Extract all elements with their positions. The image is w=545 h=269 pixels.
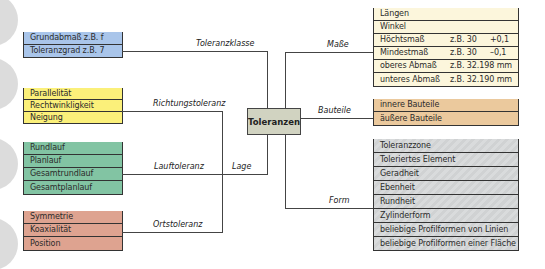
item-example: z.B. 30 (450, 47, 477, 59)
decorative-circle (0, 58, 18, 110)
connector-line (222, 174, 268, 175)
list-item: Rundheit (374, 194, 518, 208)
connector-line (122, 174, 223, 175)
label-lage: Lage (232, 162, 251, 171)
list-item: Position (24, 236, 122, 250)
list-item: beliebige Profilformen einer Fläche (374, 236, 518, 250)
item-value: +0,1 (490, 34, 509, 46)
toleranzklasse-box: Grundabmaß z.B. f Toleranzgrad z.B. 7 (23, 32, 123, 58)
connector-line (122, 232, 223, 233)
connector-line (300, 118, 373, 119)
connector-line (122, 51, 268, 52)
label-bauteile: Bauteile (318, 106, 351, 115)
connector-line (122, 111, 223, 112)
list-item: Toleranzgrad z.B. 7 (24, 44, 122, 57)
list-item: innere Bauteile (374, 99, 518, 111)
item-example: z.B. 30 (450, 34, 477, 46)
richtungstoleranz-box: Parallelität Rechtwinkligkeit Neigung (23, 88, 123, 124)
list-item: Rechtwinkligkeit (24, 99, 122, 111)
toleranzen-node: Toleranzen (247, 108, 301, 135)
list-item: Grundabmaß z.B. f (24, 32, 122, 44)
list-item: Parallelität (24, 88, 122, 99)
connector-line (222, 111, 223, 233)
lauftoleranz-box: Rundlauf Planlauf Gesamtrundlauf Gesamtp… (23, 142, 123, 195)
item-name: unteres Abmaß (380, 75, 440, 84)
list-item: Geradheit (374, 166, 518, 180)
bauteile-box: innere Bauteile äußere Bauteile (373, 99, 519, 126)
ortstoleranz-box: Symmetrie Koaxialität Position (23, 211, 123, 251)
list-item: beliebige Profilformen von Linien (374, 222, 518, 236)
list-item: Längen (374, 8, 518, 20)
item-value: –0,1 (490, 47, 506, 59)
list-item: Toleranzzone (374, 139, 518, 152)
list-item: Gesamtplanlauf (24, 180, 122, 194)
connector-line (267, 134, 268, 175)
list-item: Winkel (374, 20, 518, 33)
list-item: Planlauf (24, 154, 122, 167)
decorative-circle (0, 0, 18, 46)
connector-line (267, 51, 268, 108)
decorative-circle (0, 138, 18, 190)
connector-line (285, 52, 373, 53)
label-richtungstoleranz: Richtungstoleranz (153, 99, 225, 108)
list-item: Gesamtrundlauf (24, 167, 122, 180)
list-item: Mindestmaß z.B. 30 –0,1 (374, 46, 518, 59)
item-name: Längen (380, 9, 409, 18)
item-name: oberes Abmaß (380, 61, 437, 70)
list-item: Toleriertes Element (374, 152, 518, 166)
list-item: Ebenheit (374, 180, 518, 194)
connector-line (285, 208, 373, 209)
masse-box: Längen Winkel Höchtsmaß z.B. 30 +0,1 Min… (373, 8, 519, 87)
list-item: Höchtsmaß z.B. 30 +0,1 (374, 33, 518, 46)
form-box: Toleranzzone Toleriertes Element Geradhe… (373, 139, 519, 251)
label-ortstoleranz: Ortstoleranz (153, 220, 203, 229)
list-item: Neigung (24, 111, 122, 123)
list-item: äußere Bauteile (374, 111, 518, 125)
item-example: z.B. 32.198 mm (450, 60, 512, 72)
list-item: Symmetrie (24, 211, 122, 223)
item-example: z.B. 32.190 mm (450, 73, 512, 86)
list-item: unteres Abmaß z.B. 32.190 mm (374, 72, 518, 86)
list-item: oberes Abmaß z.B. 32.198 mm (374, 59, 518, 72)
label-lauftoleranz: Lauftoleranz (154, 162, 204, 171)
label-masse: Maße (327, 40, 349, 49)
connector-line (285, 52, 286, 108)
item-name: Höchtsmaß (380, 35, 425, 44)
item-name: Mindestmaß (380, 48, 428, 57)
decorative-circle (0, 218, 18, 269)
list-item: Zylinderform (374, 208, 518, 222)
list-item: Rundlauf (24, 142, 122, 154)
item-name: Winkel (380, 22, 406, 31)
label-form: Form (329, 196, 350, 205)
list-item: Koaxialität (24, 223, 122, 236)
connector-line (285, 134, 286, 209)
label-toleranzklasse: Toleranzklasse (196, 39, 254, 48)
